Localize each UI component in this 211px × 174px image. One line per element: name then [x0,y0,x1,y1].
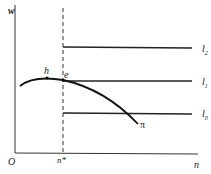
l0-label: l0 [202,109,208,123]
e-label: e [64,70,68,80]
h-label: h [44,66,49,76]
l1-label: l1 [202,77,208,91]
x-axis [15,153,198,154]
l0-subscript: 0 [205,115,208,121]
point-h [45,76,48,79]
l2-label: l2 [202,44,208,58]
l1-subscript: 1 [205,83,208,89]
y-axis-label: w [8,6,15,16]
pi-curve [20,78,138,124]
n-star-label: n* [57,155,66,165]
l2-subscript: 2 [205,50,208,56]
x-axis-label: n [194,160,199,170]
line-l2 [63,47,192,48]
diagram-canvas [0,0,211,174]
origin-label: O [8,157,15,167]
pi-label: π [140,120,145,130]
